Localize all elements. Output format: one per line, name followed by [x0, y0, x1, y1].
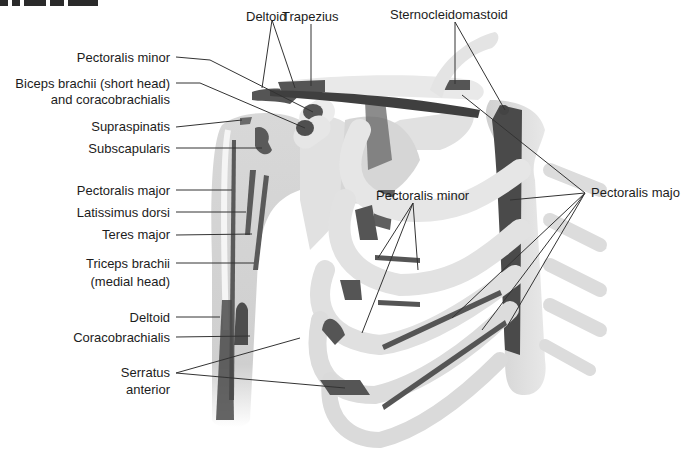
label-pectoralis-major-right: Pectoralis majo — [591, 185, 680, 200]
label-pectoralis-minor-top: Pectoralis minor — [77, 50, 170, 65]
label-deltoid-top: Deltoid — [246, 9, 286, 24]
label-trapezius: Trapezius — [282, 9, 339, 24]
label-biceps-line1: Biceps brachii (short head) — [15, 76, 170, 91]
label-coracobrachialis: Coracobrachialis — [73, 330, 170, 345]
label-serratus-line1: Serratus — [121, 365, 170, 380]
label-triceps-line2: (medial head) — [91, 274, 171, 289]
label-teres-major: Teres major — [102, 227, 170, 242]
label-pectoralis-minor-center: Pectoralis minor — [376, 188, 469, 203]
label-pectoralis-major-left: Pectoralis major — [77, 183, 170, 198]
anatomy-diagram: Deltoid Trapezius Sternocleidomastoid Pe… — [0, 0, 690, 463]
label-sternocleidomastoid: Sternocleidomastoid — [390, 7, 508, 22]
label-latissimus-dorsi: Latissimus dorsi — [77, 205, 170, 220]
label-serratus-line2: anterior — [126, 382, 170, 397]
label-subscapularis: Subscapularis — [88, 141, 170, 156]
label-biceps-line2: and coracobrachialis — [51, 92, 170, 107]
label-deltoid-bottom: Deltoid — [130, 310, 170, 325]
label-supraspinatis: Supraspinatis — [91, 119, 170, 134]
label-triceps-line1: Triceps brachii — [86, 256, 170, 271]
